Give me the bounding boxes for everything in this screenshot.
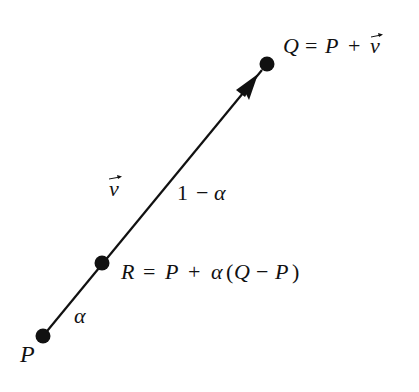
label-Q-equals: = [305,33,317,58]
label-alpha-segment: α [74,303,86,328]
label-R-Q: Q [234,259,250,284]
label-minus: − [196,180,208,205]
label-Q-symbol: Q [283,33,299,58]
label-R-close-paren: ) [292,259,299,284]
vector-line [43,70,262,336]
label-Q: Q = P + v [283,33,383,58]
label-one-minus-alpha: 1 − α [177,180,226,205]
point-R [95,256,110,271]
point-Q [260,57,275,72]
label-P: P [19,341,35,367]
label-R: R = P + α ( Q − P ) [120,259,299,284]
label-R-plus: + [188,259,200,284]
label-vector-v: v [109,175,122,201]
label-R-P: P [164,259,178,284]
label-R-open-paren: ( [226,259,233,284]
vector-diagram: Q = P + v v 1 − α R = P + α ( Q − P ) α … [0,0,419,392]
label-R-symbol: R [120,259,135,284]
label-R-alpha: α [211,259,223,284]
label-alpha: α [214,180,226,205]
label-Q-plus: + [348,33,360,58]
label-Q-P: P [324,33,338,58]
label-one: 1 [177,180,188,205]
label-R-P2: P [274,259,288,284]
point-P [36,329,51,344]
label-R-minus: − [256,259,268,284]
label-v: v [109,176,119,201]
label-R-equals: = [143,259,155,284]
